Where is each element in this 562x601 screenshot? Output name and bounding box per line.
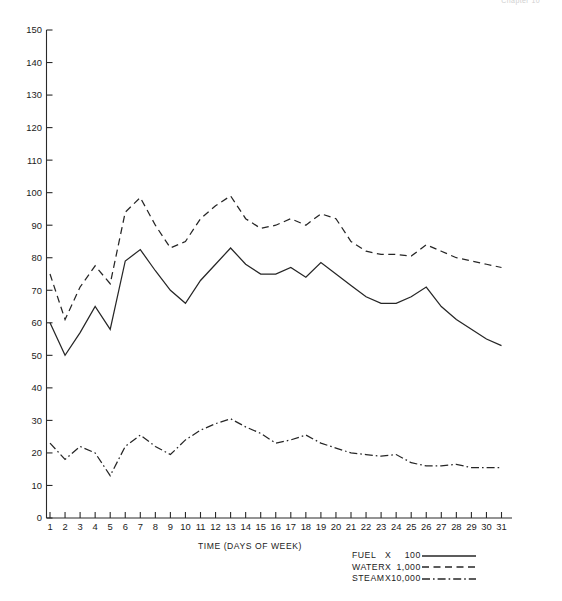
x-tick-label: 8 (153, 521, 158, 532)
x-tick-label: 16 (271, 521, 281, 532)
x-tick-label: 21 (346, 521, 356, 532)
x-tick-label: 2 (62, 521, 67, 532)
x-tick-label: 27 (436, 521, 446, 532)
y-tick-label: 150 (26, 24, 42, 35)
series-line-steam (50, 419, 502, 476)
x-tick-label: 24 (391, 521, 401, 532)
x-tick-label: 30 (481, 521, 491, 532)
x-tick-label: 9 (168, 521, 173, 532)
line-chart: 0102030405060708090100110120130140150 12… (0, 0, 562, 601)
x-axis-title: TIME (DAYS OF WEEK) (198, 541, 302, 551)
chart-page: Chapter 10 01020304050607080901001101201… (0, 0, 562, 601)
legend-row: FUELX100 (352, 550, 479, 562)
x-tick-label: 11 (196, 521, 206, 532)
y-tick-label: 50 (32, 350, 42, 361)
legend-row: WATERX1,000 (352, 562, 479, 574)
legend-multiplier: 10,000 (391, 573, 421, 585)
x-tick-label: 13 (225, 521, 235, 532)
legend-series-name: WATER (352, 562, 385, 574)
x-tick-label: 17 (286, 521, 296, 532)
y-tick-label: 140 (26, 57, 42, 68)
y-tick-label: 70 (32, 285, 42, 296)
x-tick-label: 5 (108, 521, 113, 532)
legend-table: FUELX100WATERX1,000STEAMX10,000 (352, 550, 479, 585)
y-tick-label: 80 (32, 252, 42, 263)
x-tick-label: 12 (210, 521, 220, 532)
x-tick-label: 6 (123, 521, 128, 532)
legend-multiplier: 100 (391, 550, 421, 562)
x-tick-label: 3 (77, 521, 82, 532)
legend-line-swatch-steam (421, 573, 479, 585)
x-tick-label: 15 (255, 521, 265, 532)
y-tick-label: 120 (26, 122, 42, 133)
x-tick-label: 18 (301, 521, 311, 532)
series-line-fuel (50, 248, 502, 355)
x-tick-label: 1 (47, 521, 52, 532)
x-tick-label: 20 (331, 521, 341, 532)
x-tick-label: 28 (451, 521, 461, 532)
chart-plot-area: 0102030405060708090100110120130140150 12… (0, 0, 562, 601)
x-tick-label: 10 (180, 521, 190, 532)
x-tick-label: 23 (376, 521, 386, 532)
y-tick-label: 10 (32, 480, 42, 491)
legend-row: STEAMX10,000 (352, 573, 479, 585)
y-tick-label: 130 (26, 89, 42, 100)
x-tick-label: 19 (316, 521, 326, 532)
x-tick-label: 29 (466, 521, 476, 532)
y-tick-label: 60 (32, 317, 42, 328)
series-line-water (50, 196, 502, 320)
legend-series-name: STEAM (352, 573, 385, 585)
legend-times-symbol: X (385, 562, 391, 574)
x-tick-label: 4 (93, 521, 98, 532)
y-axis: 0102030405060708090100110120130140150 (26, 24, 52, 523)
x-tick-label: 26 (421, 521, 431, 532)
x-tick-label: 31 (496, 521, 506, 532)
x-axis: 1234567891011121314151617181920212223242… (47, 512, 513, 532)
legend-line-swatch-water (421, 562, 479, 574)
y-tick-label: 90 (32, 220, 42, 231)
y-tick-label: 110 (27, 155, 42, 166)
y-tick-label: 0 (37, 512, 42, 523)
legend-line-swatch-fuel (421, 550, 479, 562)
x-tick-label: 22 (361, 521, 371, 532)
y-tick-label: 30 (32, 415, 42, 426)
x-tick-label: 14 (240, 521, 250, 532)
legend-multiplier: 1,000 (391, 562, 421, 574)
y-tick-label: 100 (26, 187, 42, 198)
x-tick-label: 25 (406, 521, 416, 532)
y-tick-label: 20 (32, 447, 42, 458)
legend-times-symbol: X (385, 550, 391, 562)
legend-series-name: FUEL (352, 550, 385, 562)
series-group (50, 196, 502, 476)
x-tick-label: 7 (138, 521, 143, 532)
chart-legend: FUELX100WATERX1,000STEAMX10,000 (352, 550, 479, 585)
y-tick-label: 40 (32, 382, 42, 393)
